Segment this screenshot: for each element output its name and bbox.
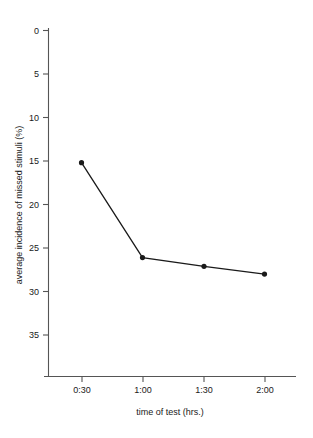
y-axis-title: average incidence of missed stimuli (%) — [14, 126, 24, 285]
y-tick-label-0: 0 — [34, 26, 39, 36]
y-tick-label-25: 25 — [29, 243, 39, 253]
y-tick-label-30: 30 — [29, 287, 39, 297]
x-axis-title: time of test (hrs.) — [136, 407, 204, 417]
data-point-1 — [140, 255, 145, 260]
y-tick-label-5: 5 — [34, 69, 39, 79]
data-point-3 — [262, 272, 267, 277]
x-tick-label-2: 1:30 — [195, 385, 213, 395]
y-tick-label-20: 20 — [29, 200, 39, 210]
data-series-line — [82, 163, 265, 274]
line-chart: 0 5 10 15 20 25 30 35 0:30 1:00 1:30 2:0… — [0, 0, 313, 438]
x-tick-label-0: 0:30 — [73, 385, 91, 395]
data-point-0 — [79, 160, 84, 165]
x-tick-label-3: 2:00 — [256, 385, 274, 395]
y-tick-label-15: 15 — [29, 156, 39, 166]
data-point-2 — [201, 264, 206, 269]
y-tick-label-35: 35 — [29, 330, 39, 340]
y-tick-label-10: 10 — [29, 113, 39, 123]
x-tick-label-1: 1:00 — [134, 385, 152, 395]
chart-figure: 0 5 10 15 20 25 30 35 0:30 1:00 1:30 2:0… — [0, 0, 313, 438]
